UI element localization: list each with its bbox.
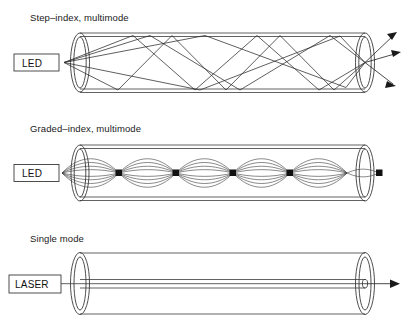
fiber-end-left-outer-graded: [71, 145, 89, 201]
ray-bundle-graded-index: [62, 159, 379, 188]
exit-arrow-single-mode: [365, 280, 400, 289]
source-label-led-step-index: LED: [22, 58, 42, 69]
fiber-diagram-root: Step–index, multimode: [0, 0, 406, 331]
focal-node: [116, 170, 123, 177]
section-step-index-multimode: Step–index, multimode: [14, 12, 401, 93]
fiber-end-left-inner: [74, 37, 86, 88]
fiber-end-right-outer-graded: [356, 145, 374, 201]
section-title-step-index: Step–index, multimode: [30, 12, 129, 23]
fiber-end-left-inner-graded: [74, 149, 86, 197]
section-title-single-mode: Single mode: [30, 233, 84, 244]
section-graded-index-multimode: Graded–index, multimode: [14, 123, 383, 201]
exit-arrowhead-single: [390, 280, 400, 289]
fiber-end-right-inner-graded: [359, 149, 371, 197]
focal-node: [230, 170, 237, 177]
section-title-graded-index: Graded–index, multimode: [30, 123, 141, 134]
source-label-laser: LASER: [15, 279, 49, 290]
source-led-step-index[interactable]: LED: [14, 54, 59, 71]
ray-bundle-step-index: [64, 36, 365, 91]
exit-arrowhead-2: [391, 50, 401, 57]
exit-arrowhead-1: [387, 32, 397, 40]
optical-fiber-diagram: Step–index, multimode: [0, 0, 406, 331]
source-led-graded-index[interactable]: LED: [14, 165, 59, 182]
focal-node: [173, 170, 180, 177]
exit-arrows-step-index: [365, 32, 401, 88]
source-label-led-graded-index: LED: [22, 168, 42, 179]
source-laser-single-mode[interactable]: LASER: [9, 275, 61, 293]
focal-node: [287, 170, 294, 177]
fiber-end-left-outer: [71, 33, 90, 92]
section-single-mode: Single mode LASER: [9, 233, 400, 315]
focal-node-exit: [376, 170, 383, 177]
